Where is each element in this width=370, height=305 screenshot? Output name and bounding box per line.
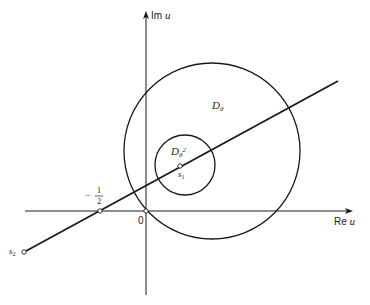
point-s2 (22, 250, 26, 254)
real-axis-label: Re u (334, 215, 356, 227)
point-s1 (178, 164, 182, 168)
point-minus-half (98, 209, 102, 213)
inner-disk-label: Dθ2 (170, 145, 186, 159)
s2-label: s2 (9, 246, 16, 257)
complex-plane-diagram: Im u Re u 0 Dθ Dθ2 s1 s2 − 1 2 (0, 0, 370, 305)
point-origin (144, 209, 148, 213)
imaginary-axis-label: Im u (151, 9, 171, 21)
s1-label: s1 (178, 169, 185, 180)
svg-text:2: 2 (97, 197, 101, 206)
svg-text:−: − (85, 190, 90, 200)
outer-disk-label: Dθ (211, 99, 224, 113)
svg-text:1: 1 (97, 186, 101, 195)
origin-label: 0 (138, 215, 144, 226)
minus-half-label: − 1 2 (85, 186, 103, 206)
